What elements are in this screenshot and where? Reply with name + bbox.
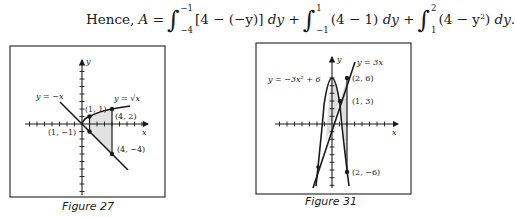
period: . (511, 11, 515, 27)
intersection-point (316, 165, 320, 169)
differential: dy (495, 11, 511, 27)
curve-label-neg-x: y = −x (35, 92, 64, 101)
point-2-neg6 (345, 170, 349, 174)
point-label-1-3: (1, 3) (352, 97, 374, 106)
point-label-1-1: (1, 1) (85, 105, 107, 114)
x-axis-label: x (142, 128, 147, 137)
figure-27-caption: Figure 27 (62, 200, 114, 213)
point-4-2 (110, 107, 114, 111)
point-2-6 (345, 76, 349, 80)
y-axis-label: y (336, 55, 342, 64)
figure-27: y x y = −x y = √x (1, 1) (4, 2) (1, −1) … (10, 46, 165, 197)
point-label-2-neg6: (2, −6) (352, 168, 380, 177)
point-1-1 (87, 114, 91, 118)
point-1-neg1 (87, 129, 91, 133)
point-label-4-neg4: (4, −4) (117, 145, 145, 154)
curve-label-3x: y = 3x (356, 58, 383, 67)
point-1-3 (338, 99, 342, 103)
figure-31: y x y = 3x y = −3x² + 6 (2, 6) (1, 3) (2… (256, 43, 411, 194)
point-label-1-neg1: (1, −1) (48, 128, 76, 137)
y-axis-label: y (85, 57, 91, 66)
shaded-region (90, 109, 113, 154)
point-label-2-6: (2, 6) (352, 74, 374, 83)
point-4-neg4 (110, 152, 114, 156)
curve-label-sqrt-x: y = √x (113, 94, 140, 103)
figure-31-caption: Figure 31 (305, 195, 357, 208)
point-label-4-2: (4, 2) (115, 112, 137, 121)
x-axis-label: x (392, 128, 397, 137)
shaded-region (326, 78, 347, 172)
curve-label-parabola: y = −3x² + 6 (267, 75, 321, 84)
